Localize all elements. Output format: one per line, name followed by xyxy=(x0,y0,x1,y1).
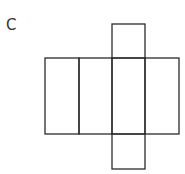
face-2 xyxy=(79,58,112,134)
face-3 xyxy=(112,58,145,134)
bottom-flap xyxy=(112,134,145,169)
net-diagram xyxy=(0,0,185,174)
face-1 xyxy=(45,58,79,134)
top-flap xyxy=(112,24,145,58)
face-4 xyxy=(145,58,179,134)
